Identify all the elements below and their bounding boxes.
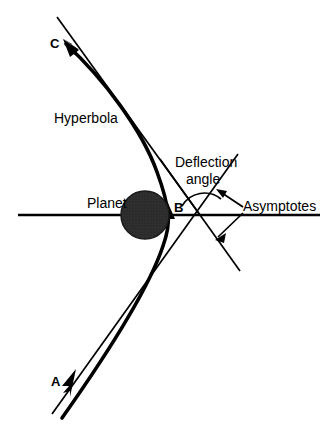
trajectory-diagram: C A B Planet Hyperbola Deflection angle … <box>0 0 326 432</box>
planet-body <box>121 191 169 239</box>
label-point-b: B <box>174 200 183 215</box>
diagram-canvas: C A B Planet Hyperbola Deflection angle … <box>0 0 326 432</box>
label-asymptotes: Asymptotes <box>243 198 316 214</box>
label-deflection-angle-line2: angle <box>186 171 220 187</box>
label-point-a: A <box>51 374 61 389</box>
label-hyperbola: Hyperbola <box>54 110 118 126</box>
label-planet: Planet <box>87 195 127 211</box>
label-point-c: C <box>50 36 60 51</box>
label-deflection-angle-line1: Deflection <box>175 154 237 170</box>
asymptotes-leader-lower-line <box>218 213 243 237</box>
